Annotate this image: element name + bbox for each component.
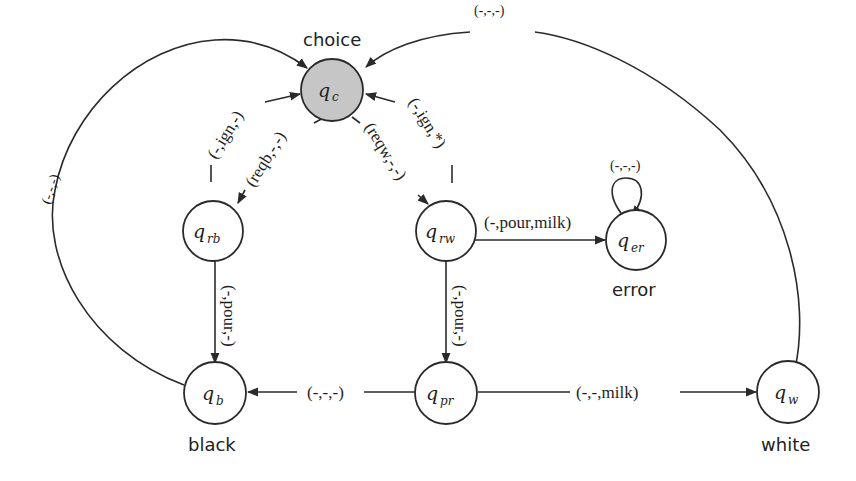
label-qw-qc: (-,-,-) bbox=[474, 3, 505, 19]
state-name-choice: choice bbox=[303, 29, 361, 50]
label-qrb-qb: (-,pour,-) bbox=[220, 285, 239, 347]
svg-text:q: q bbox=[774, 381, 786, 403]
svg-text:q: q bbox=[193, 220, 205, 242]
label-qer-loop: (-,-,-) bbox=[610, 158, 641, 174]
svg-text:q: q bbox=[202, 382, 214, 404]
label-qpr-qw: (-,-,milk) bbox=[576, 383, 638, 402]
svg-text:b: b bbox=[216, 394, 224, 408]
state-qrb: q rb bbox=[183, 201, 243, 261]
svg-text:c: c bbox=[332, 90, 339, 104]
state-qc: q c bbox=[301, 59, 363, 121]
svg-text:q: q bbox=[318, 79, 330, 101]
svg-text:rw: rw bbox=[439, 232, 456, 246]
state-name-white: white bbox=[761, 434, 810, 455]
state-qpr: q pr bbox=[415, 362, 477, 424]
state-name-black: black bbox=[188, 434, 236, 455]
state-name-error: error bbox=[612, 279, 656, 300]
svg-text:q: q bbox=[426, 382, 438, 404]
state-qw: q w bbox=[757, 361, 819, 423]
automaton-diagram: q c q rb q rw q er q b q pr q w choice e… bbox=[0, 0, 856, 481]
label-qrw-qer: (-,pour,milk) bbox=[484, 213, 571, 232]
svg-text:er: er bbox=[631, 241, 645, 255]
svg-text:pr: pr bbox=[440, 394, 455, 408]
svg-text:rb: rb bbox=[207, 232, 220, 246]
svg-text:w: w bbox=[788, 393, 799, 407]
label-qrw-qpr: (-,pour,-) bbox=[451, 285, 470, 347]
state-qer: q er bbox=[606, 210, 666, 270]
svg-text:q: q bbox=[425, 220, 437, 242]
state-qb: q b bbox=[184, 362, 246, 424]
state-qrw: q rw bbox=[416, 201, 476, 261]
label-qpr-qb: (-,-,-) bbox=[307, 383, 344, 402]
svg-text:q: q bbox=[617, 229, 629, 251]
